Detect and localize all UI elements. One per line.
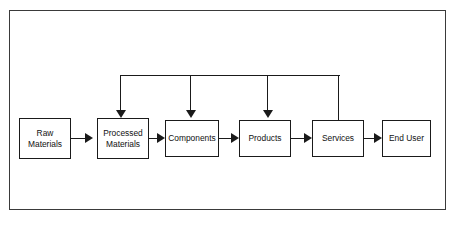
arrowhead-components-to-products bbox=[231, 133, 239, 143]
node-raw-materials-line2: Materials bbox=[28, 139, 62, 150]
arrowhead-products-to-services bbox=[304, 133, 312, 143]
node-components-label: Components bbox=[168, 133, 216, 144]
feedback-drop-to-processed-materials bbox=[120, 75, 121, 111]
node-raw-materials[interactable]: Raw Materials bbox=[19, 118, 71, 159]
node-end-user-label: End User bbox=[389, 133, 424, 144]
arrowhead-raw-to-processed bbox=[85, 133, 93, 143]
connector-products-to-services bbox=[291, 138, 304, 139]
feedback-drop-to-products bbox=[267, 75, 268, 111]
feedback-arrowhead-products bbox=[263, 110, 273, 118]
connector-components-to-products bbox=[219, 138, 231, 139]
node-end-user[interactable]: End User bbox=[382, 120, 431, 157]
feedback-arrowhead-processed-materials bbox=[116, 110, 126, 118]
feedback-bus-line bbox=[120, 75, 340, 76]
connector-services-to-end-user bbox=[364, 138, 374, 139]
node-services[interactable]: Services bbox=[312, 120, 364, 157]
connector-processed-to-components bbox=[149, 138, 157, 139]
arrowhead-processed-to-components bbox=[157, 133, 165, 143]
node-components[interactable]: Components bbox=[165, 120, 219, 157]
arrowhead-services-to-end-user bbox=[374, 133, 382, 143]
feedback-drop-to-components bbox=[190, 75, 191, 111]
diagram-screenshot: The Value Chain Raw Materials bbox=[0, 0, 455, 229]
connector-raw-to-processed bbox=[71, 138, 85, 139]
node-processed-materials-line2: Materials bbox=[103, 139, 143, 150]
node-products[interactable]: Products bbox=[239, 120, 291, 157]
feedback-arrowhead-components bbox=[186, 110, 196, 118]
node-processed-materials[interactable]: Processed Materials bbox=[97, 118, 149, 159]
node-services-label: Services bbox=[322, 133, 354, 144]
feedback-riser-from-services bbox=[338, 75, 339, 120]
node-products-label: Products bbox=[248, 133, 281, 144]
figure-caption: The Value Chain bbox=[9, 0, 85, 3]
diagram-frame: Raw Materials Processed Materials Compon… bbox=[9, 10, 446, 210]
node-processed-materials-line1: Processed bbox=[103, 128, 143, 139]
node-raw-materials-line1: Raw bbox=[28, 128, 62, 139]
